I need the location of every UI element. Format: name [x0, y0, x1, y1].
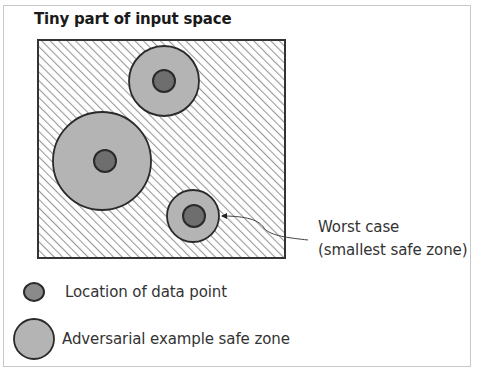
annotation-line-1: Worst case	[318, 218, 399, 236]
legend-label-safe-zone: Adversarial example safe zone	[62, 330, 290, 348]
data-point-top	[153, 70, 175, 92]
data-point-worst-case	[183, 205, 205, 227]
safe-zone-worst-case	[167, 190, 219, 242]
diagram-canvas	[0, 0, 479, 374]
annotation-line-2: (smallest safe zone)	[318, 241, 467, 259]
data-point-left	[94, 150, 116, 172]
legend-label-data-point: Location of data point	[65, 283, 227, 301]
safe-zone-icon	[14, 319, 54, 359]
safe-zone-top	[129, 46, 199, 116]
data-point-icon	[24, 283, 44, 301]
safe-zone-left	[53, 112, 151, 210]
